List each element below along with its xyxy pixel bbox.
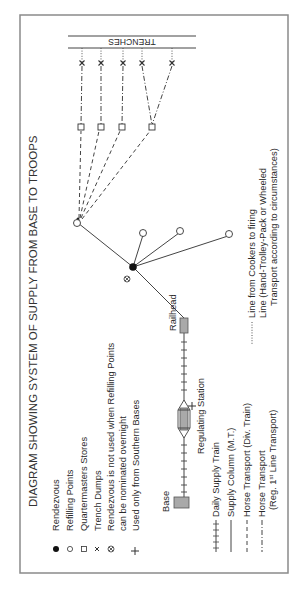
legend-line-label: Daily Supply Train [211, 442, 221, 517]
legend-label: Rendezvous [51, 479, 61, 531]
railhead-label: Railhead [168, 294, 178, 331]
legend-rendezvous-icon [53, 546, 59, 552]
refilling-points [74, 220, 233, 238]
refilling-point-circle-icon [226, 231, 233, 238]
supply-column-lines [78, 223, 228, 318]
line-legend: Daily Supply Train Supply Column (M.T.) … [211, 148, 279, 552]
trenches: TRENCHES [68, 36, 196, 48]
dash-dot-line [122, 66, 123, 125]
dashed-line [79, 131, 81, 218]
refilling-point-circle-icon [74, 220, 81, 227]
regulating-station-label: Regulating Station [196, 378, 206, 454]
legend-refilling-icon [67, 546, 72, 551]
legend-label: Used only from Southern Bases [131, 399, 141, 531]
legend-line-label-cont: Transport according to circumstances) [269, 148, 279, 306]
refilling-point-circle-icon [140, 230, 147, 237]
legend-line-label: Horse Transport (Div. Train) [242, 403, 252, 517]
legend-label: Refilling Points [65, 469, 75, 531]
solid-line [133, 233, 179, 267]
qm-store-square-icon [78, 124, 84, 130]
qm-store-square-icon [98, 124, 104, 130]
dashed-line [81, 131, 120, 218]
base-box [174, 497, 189, 508]
legend-label-cont: can be nominated overnight [118, 416, 128, 531]
dashed-line [80, 131, 99, 218]
legend-daily-supply-train-line [213, 520, 219, 552]
solid-line [133, 235, 143, 267]
solid-line [133, 236, 228, 267]
legend-qm-store-icon [82, 547, 87, 552]
legend-label: Trench Dumps [93, 470, 103, 531]
legend-trench-dump-icon [95, 547, 99, 551]
legend-line-label: Supply Column (M.T.) [226, 428, 236, 517]
base-label: Base [161, 491, 171, 512]
railhead-box [180, 318, 188, 333]
regimental-transport-lines [81, 66, 172, 125]
legend-label: Quartermasters Stores [79, 437, 89, 531]
symbol-legend: Rendezvous Refilling Points Quartermaste… [51, 343, 141, 555]
solid-line [78, 223, 133, 267]
div-train-lines [79, 131, 150, 219]
legend-label: Rendezvous is not used when Refilling Po… [106, 343, 116, 531]
trenches-label: TRENCHES [108, 37, 156, 47]
dash-dot-line [81, 66, 82, 125]
legend-circled-x-icon [108, 546, 114, 552]
refilling-point-circle-icon [177, 228, 184, 235]
qm-store-square-icon [149, 124, 155, 130]
legend-line-label-cont: (Reg. 1st Line Transport) [268, 410, 278, 510]
dash-dot-line [152, 66, 172, 125]
rendezvous-dot-icon [129, 263, 137, 271]
supply-diagram: DIAGRAM SHOWING SYSTEM OF SUPPLY FROM BA… [0, 0, 303, 599]
dashed-line [82, 131, 150, 219]
qm-store-square-icon [119, 124, 125, 130]
quartermasters-stores [78, 124, 155, 130]
legend-line-label-cont: Line (Hand-Trolley-Pack or Wheeled [258, 168, 268, 318]
cooker-lines [82, 48, 172, 62]
trench-dumps [80, 61, 175, 66]
circled-x-icon [124, 276, 130, 282]
diagram-title: DIAGRAM SHOWING SYSTEM OF SUPPLY FROM BA… [27, 135, 39, 507]
legend-line-label: Horse Transport [257, 450, 267, 517]
dash-dot-line [142, 66, 152, 125]
legend-plus-icon [131, 547, 139, 555]
legend-line-label: Line from Cookers to firing [247, 209, 257, 318]
